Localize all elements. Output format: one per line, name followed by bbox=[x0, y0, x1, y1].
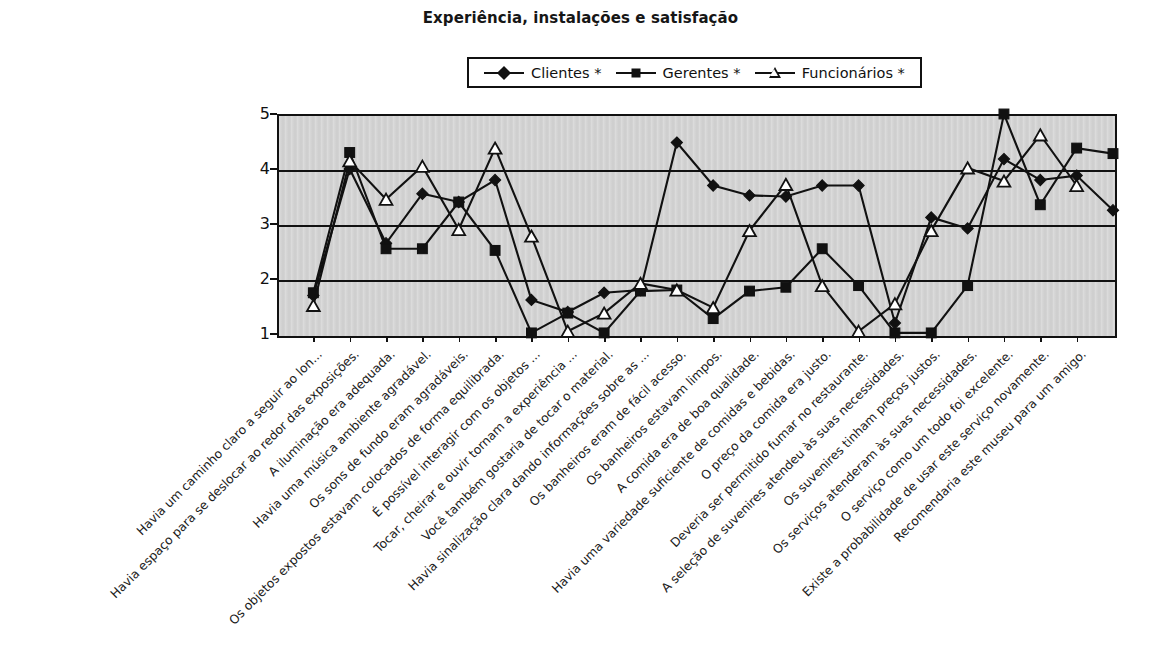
data-point-triangle-icon bbox=[1070, 180, 1083, 191]
data-point-triangle-icon bbox=[416, 161, 429, 172]
x-axis-tick-mark bbox=[640, 336, 642, 342]
data-point-triangle-icon bbox=[525, 231, 538, 242]
data-point-diamond-icon bbox=[926, 212, 937, 223]
data-point-triangle-icon bbox=[452, 224, 465, 235]
data-point-diamond-icon bbox=[599, 287, 610, 298]
y-axis-tick-labels: 54321 bbox=[240, 104, 270, 344]
y-axis-tick-label: 5 bbox=[260, 106, 270, 122]
y-axis-tick-mark bbox=[270, 333, 277, 335]
x-axis-tick-mark bbox=[350, 336, 352, 342]
x-axis-tick-mark bbox=[1040, 336, 1042, 342]
x-axis-tick-mark bbox=[968, 336, 970, 342]
y-axis-tick-mark bbox=[270, 113, 277, 115]
data-point-square-icon bbox=[490, 246, 500, 256]
x-axis-tick-mark bbox=[459, 336, 461, 342]
data-point-square-icon bbox=[1108, 149, 1118, 159]
data-point-triangle-icon bbox=[1034, 129, 1047, 140]
data-point-triangle-icon bbox=[961, 162, 974, 173]
data-point-square-icon bbox=[999, 109, 1009, 119]
data-point-square-icon bbox=[817, 244, 827, 254]
data-point-triangle-icon bbox=[307, 300, 320, 311]
data-point-square-icon bbox=[926, 328, 936, 338]
data-point-diamond-icon bbox=[998, 154, 1009, 165]
data-point-triangle-icon bbox=[561, 326, 574, 337]
data-point-diamond-icon bbox=[526, 294, 537, 305]
series-2 bbox=[313, 114, 1113, 333]
y-axis-tick-mark bbox=[270, 223, 277, 225]
data-point-diamond-icon bbox=[962, 223, 973, 234]
data-point-triangle-icon bbox=[998, 176, 1011, 187]
x-axis-tick-mark bbox=[713, 336, 715, 342]
chart-plot-wrapper: 54321 Havia um caminho claro a seguir ao… bbox=[0, 0, 1161, 664]
data-point-square-icon bbox=[890, 328, 900, 338]
y-axis-tick-label: 3 bbox=[260, 216, 270, 232]
data-point-diamond-icon bbox=[489, 174, 500, 185]
data-point-square-icon bbox=[563, 308, 573, 318]
data-point-square-icon bbox=[527, 328, 537, 338]
x-axis-tick-label: Havia uma música ambiente agradável. bbox=[0, 348, 434, 664]
x-axis-tick-mark bbox=[495, 336, 497, 342]
x-axis-tick-mark bbox=[677, 336, 679, 342]
data-point-square-icon bbox=[1072, 143, 1082, 153]
y-axis-tick-mark bbox=[270, 168, 277, 170]
series-line bbox=[313, 114, 1113, 333]
data-point-square-icon bbox=[381, 244, 391, 254]
y-axis-tick-label: 1 bbox=[260, 326, 270, 342]
x-axis-tick-mark bbox=[1077, 336, 1079, 342]
data-point-triangle-icon bbox=[743, 225, 756, 236]
data-point-square-icon bbox=[745, 286, 755, 296]
x-axis-tick-mark bbox=[313, 336, 315, 342]
y-axis-tick-label: 4 bbox=[260, 161, 270, 177]
x-axis-tick-mark bbox=[422, 336, 424, 342]
series-1-markers bbox=[308, 137, 1119, 329]
data-point-diamond-icon bbox=[744, 190, 755, 201]
data-point-triangle-icon bbox=[779, 179, 792, 190]
data-point-square-icon bbox=[599, 328, 609, 338]
data-point-square-icon bbox=[963, 281, 973, 291]
data-point-triangle-icon bbox=[489, 143, 502, 154]
x-axis-tick-mark bbox=[750, 336, 752, 342]
x-axis-tick-mark bbox=[1004, 336, 1006, 342]
data-point-diamond-icon bbox=[853, 180, 864, 191]
data-point-square-icon bbox=[854, 281, 864, 291]
data-point-triangle-icon bbox=[816, 280, 829, 291]
data-point-square-icon bbox=[454, 197, 464, 207]
x-axis-tick-mark bbox=[822, 336, 824, 342]
data-point-square-icon bbox=[781, 282, 791, 292]
y-axis-tick-label: 2 bbox=[260, 271, 270, 287]
data-point-square-icon bbox=[1035, 200, 1045, 210]
data-point-square-icon bbox=[417, 244, 427, 254]
y-axis-tick-mark bbox=[270, 278, 277, 280]
data-point-square-icon bbox=[708, 314, 718, 324]
data-point-triangle-icon bbox=[707, 302, 720, 313]
series-layer bbox=[277, 114, 1113, 334]
data-point-diamond-icon bbox=[1035, 174, 1046, 185]
x-axis-tick-mark bbox=[786, 336, 788, 342]
data-point-diamond-icon bbox=[817, 180, 828, 191]
x-axis-tick-mark bbox=[386, 336, 388, 342]
